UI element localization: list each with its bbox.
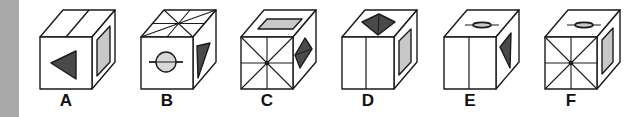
option-label-c: C	[255, 91, 279, 111]
cube-b[interactable]	[141, 10, 216, 89]
cube-d[interactable]	[342, 10, 417, 89]
option-label-b: B	[155, 91, 179, 111]
option-label-f: F	[559, 91, 583, 111]
option-label-d: D	[356, 91, 380, 111]
option-label-e: E	[458, 91, 482, 111]
cube-options-diagram	[0, 0, 642, 117]
cube-e[interactable]	[444, 10, 519, 89]
cube-a[interactable]	[40, 10, 115, 89]
cube-e-ellipse-icon	[473, 22, 491, 27]
option-label-a: A	[54, 91, 78, 111]
cube-f-ellipse-icon	[575, 22, 593, 27]
cube-e-front-face	[444, 37, 496, 89]
cube-d-front-face	[342, 37, 394, 89]
cube-c[interactable]	[241, 10, 316, 89]
cube-f[interactable]	[545, 10, 620, 89]
